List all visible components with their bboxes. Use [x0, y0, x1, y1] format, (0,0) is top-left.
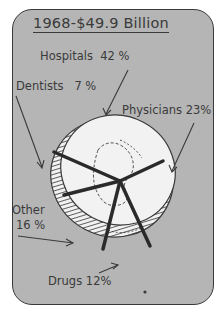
label-physicians-name: Physicians: [122, 103, 182, 117]
label-hospitals-value: 42 %: [100, 49, 129, 63]
coin-pie-illustration: [0, 0, 224, 311]
label-physicians-value: 23%: [186, 103, 212, 117]
label-dentists-value: 7 %: [74, 79, 96, 93]
label-drugs-value: 12%: [86, 274, 112, 288]
label-drugs: Drugs 12%: [48, 275, 111, 288]
label-dentists-name: Dentists: [16, 79, 63, 93]
label-hospitals: Hospitals 42 %: [40, 50, 129, 63]
label-dentists: Dentists 7 %: [16, 80, 96, 93]
label-other-value: 16 %: [12, 218, 45, 233]
label-hospitals-name: Hospitals: [40, 49, 93, 63]
label-physicians: Physicians 23%: [122, 104, 211, 117]
label-other: Other 16 %: [12, 203, 45, 233]
label-drugs-name: Drugs: [48, 274, 82, 288]
label-other-name: Other: [12, 203, 45, 218]
